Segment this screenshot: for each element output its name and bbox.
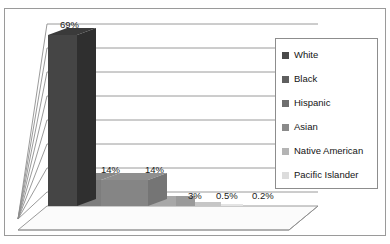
bar-value-label-asian: 3% xyxy=(188,190,202,201)
legend-swatch-icon xyxy=(282,100,289,107)
bar-value-label-white: 69% xyxy=(60,19,79,30)
legend-label: Pacific Islander xyxy=(294,170,358,180)
floor-plane xyxy=(18,206,318,230)
legend-swatch-icon xyxy=(282,148,289,155)
bar-value-label-hispanic: 14% xyxy=(145,164,164,175)
legend-item-asian[interactable]: Asian xyxy=(282,115,377,139)
legend-label: Black xyxy=(294,74,317,84)
legend-label: Native American xyxy=(294,146,363,156)
bar-hispanic xyxy=(101,173,167,206)
legend-swatch-icon xyxy=(282,76,289,83)
legend-item-white[interactable]: White xyxy=(282,43,377,67)
legend-label: Hispanic xyxy=(294,98,330,108)
bar-value-label-native-american: 0.5% xyxy=(216,190,238,201)
legend-label: White xyxy=(294,50,318,60)
legend-item-pacific-islander[interactable]: Pacific Islander xyxy=(282,163,377,187)
bar-value-label-pacific-islander: 0.2% xyxy=(252,190,274,201)
legend-swatch-icon xyxy=(282,52,289,59)
legend-label: Asian xyxy=(294,122,318,132)
bar-white xyxy=(48,28,96,206)
legend-swatch-icon xyxy=(282,172,289,179)
bar-value-label-black: 14% xyxy=(101,164,120,175)
legend-item-hispanic[interactable]: Hispanic xyxy=(282,91,377,115)
legend-swatch-icon xyxy=(282,124,289,131)
chart-legend: White Black Hispanic Asian Native Americ… xyxy=(275,38,378,189)
legend-item-native-american[interactable]: Native American xyxy=(282,139,377,163)
legend-item-black[interactable]: Black xyxy=(282,67,377,91)
chart-container: 69% 14% 14% 3% 0.5% 0.2% White Black His… xyxy=(0,0,390,244)
